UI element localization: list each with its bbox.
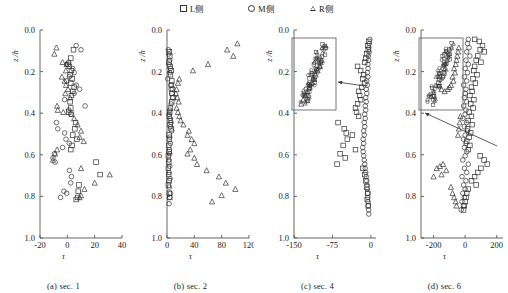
y-tick-label: 0.4 [278,108,289,118]
x-tick-label: 200 [490,240,503,250]
y-tick-label: 0.4 [151,108,162,118]
x-tick-label: -150 [286,240,302,250]
legend-entry-r: R侧 [310,2,334,14]
x-tick-label: 0 [369,240,373,250]
x-tick-label: -20 [34,240,45,250]
y-tick-label: 0.2 [151,67,162,77]
annotation-arrowhead [338,81,342,85]
square-marker-icon [180,5,187,12]
y-tick-label: 0.6 [151,150,162,160]
y-tick-label: 0.0 [24,25,35,35]
y-tick-label: 0.8 [24,191,35,201]
x-tick-label: 40 [118,240,127,250]
y-tick-label: 0.2 [24,67,35,77]
scatter-plot-a: 0.00.20.40.60.81.0-2002040z /h [0,16,127,266]
caption-a: (a) sec. 1 [0,281,127,291]
y-axis-label: z /h [392,50,401,62]
y-axis-label: z /h [138,50,147,62]
y-tick-label: 0.6 [278,150,289,160]
inset-cluster [426,41,456,106]
y-axis-label: z /h [11,50,20,62]
legend-entry-m: M侧 [248,2,275,14]
y-tick-label: 0.2 [278,67,289,77]
subplot-c: 0.00.20.40.60.81.0-150-750z /h τ (c) sec… [254,16,381,293]
triangle-marker-icon [310,6,316,11]
x-axis-label-a: τ [0,252,127,261]
series-triangle [173,41,240,204]
x-tick-label: 0 [65,240,69,250]
series-triangle [50,45,112,200]
subplot-a: 0.00.20.40.60.81.0-2002040z /h τ (a) sec… [0,16,127,293]
caption-c: (c) sec. 4 [254,281,381,291]
series-triangle [431,45,463,208]
x-tick-label: 40 [190,240,199,250]
y-tick-label: 0.0 [405,25,416,35]
y-tick-label: 0.8 [405,191,416,201]
y-tick-label: 0.6 [405,150,416,160]
y-tick-label: 0.4 [24,108,35,118]
scatter-plot-b: 0.00.20.40.60.81.004080120z /h [127,16,254,266]
x-tick-label: 0 [463,240,467,250]
y-tick-label: 0.2 [405,67,416,77]
subplot-b: 0.00.20.40.60.81.004080120z /h τ (b) sec… [127,16,254,293]
legend-entry-l: L侧 [180,2,205,14]
legend: L侧 M侧 R侧 [0,0,508,16]
scatter-plot-c: 0.00.20.40.60.81.0-150-750z /h [254,16,381,266]
x-tick-label: 80 [217,240,226,250]
y-tick-label: 1.0 [151,233,162,243]
caption-d: (d) sec. 6 [381,281,508,291]
y-axis-label: z /h [265,50,274,62]
x-tick-label: 0 [165,240,169,250]
y-tick-label: 0.8 [278,191,289,201]
legend-label-m: M侧 [258,2,275,14]
scatter-plot-d: 0.00.20.40.60.81.0-2000200z /h [381,16,508,266]
x-axis-label-b: τ [127,252,254,261]
annotation-arrow [425,113,497,146]
y-tick-label: 0.0 [151,25,162,35]
x-tick-label: -75 [327,240,338,250]
inset-cluster [299,43,328,105]
x-axis-label-d: τ [381,252,508,261]
legend-label-r: R侧 [319,2,334,14]
legend-label-l: L侧 [190,2,205,14]
y-tick-label: 0.0 [278,25,289,35]
caption-b: (b) sec. 2 [127,281,254,291]
x-axis-label-c: τ [254,252,381,261]
x-tick-label: -200 [426,240,442,250]
x-tick-label: 20 [90,240,99,250]
x-tick-label: 120 [243,240,254,250]
y-tick-label: 0.4 [405,108,416,118]
circle-marker-icon [248,5,255,12]
figure-container: L侧 M侧 R侧 0.00.20.40.60.81.0-2002040z /h … [0,0,508,293]
y-tick-label: 1.0 [405,233,416,243]
y-tick-label: 0.8 [151,191,162,201]
subplot-d: 0.00.20.40.60.81.0-2000200z /h τ (d) sec… [381,16,508,293]
y-tick-label: 0.6 [24,150,35,160]
